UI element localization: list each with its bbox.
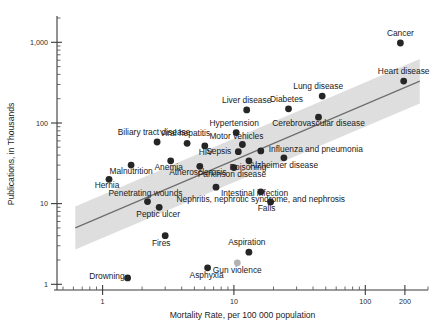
data-point-label: Hypertension xyxy=(210,118,260,128)
data-point-marker[interactable] xyxy=(319,93,326,100)
scatter-plot-canvas: 1101001,000110100200Mortality Rate, per … xyxy=(0,0,437,335)
data-point-label: Cerebrovascular disease xyxy=(272,118,365,128)
data-point-label: Heart disease xyxy=(378,66,430,76)
data-point-marker[interactable] xyxy=(184,140,191,147)
data-point-label: Liver disease xyxy=(222,95,272,105)
x-axis-tick-label: 200 xyxy=(399,297,411,306)
y-axis-tick-label: 1 xyxy=(44,280,48,289)
data-point-marker[interactable] xyxy=(213,184,220,191)
x-axis-title: Mortality Rate, per 100 000 population xyxy=(170,310,316,320)
y-axis-tick-label: 100 xyxy=(36,119,48,128)
data-point-label: Penetrating wounds xyxy=(108,188,182,198)
data-point-marker[interactable] xyxy=(144,198,151,205)
x-axis-tick-label: 100 xyxy=(359,297,371,306)
data-point-marker[interactable] xyxy=(246,249,253,256)
data-point-marker[interactable] xyxy=(397,40,404,47)
data-point-label: Diabetes xyxy=(270,94,303,104)
data-point-marker[interactable] xyxy=(285,105,292,112)
data-point-label: HIV xyxy=(199,147,213,157)
data-point-marker[interactable] xyxy=(235,148,242,155)
x-axis-tick-label: 1 xyxy=(101,297,105,306)
data-point-marker[interactable] xyxy=(239,141,246,148)
data-point-label: Malnutrition xyxy=(109,166,153,176)
data-point-label: Drowning xyxy=(89,271,125,281)
data-point-marker[interactable] xyxy=(243,107,250,114)
y-axis-tick-label: 1,000 xyxy=(30,38,48,47)
data-point-label: Fires xyxy=(152,238,171,248)
data-point-marker[interactable] xyxy=(257,148,264,155)
publications-vs-mortality-scatter-figure: 1101001,000110100200Mortality Rate, per … xyxy=(0,0,437,335)
data-point-marker[interactable] xyxy=(124,275,131,282)
data-point-label: Biliary tract disease xyxy=(118,127,191,137)
data-point-label: Motor vehicles xyxy=(209,131,263,141)
data-point-label: Lung disease xyxy=(293,81,343,91)
data-point-label: Aspiration xyxy=(228,237,266,247)
data-point-label: Peptic ulcer xyxy=(136,209,180,219)
data-point-label: Influenza and pneumonia xyxy=(269,144,363,154)
data-point-label: Gun violence xyxy=(213,265,262,275)
y-axis-title: Publications, in Thousands xyxy=(6,103,16,206)
data-point-marker[interactable] xyxy=(154,139,161,146)
data-point-label: Falls xyxy=(258,203,276,213)
data-point-marker[interactable] xyxy=(400,78,407,85)
x-axis-tick-label: 10 xyxy=(230,297,238,306)
y-axis-tick-label: 10 xyxy=(40,199,48,208)
data-point-label: Cancer xyxy=(387,28,414,38)
data-point-label: Parkinson disease xyxy=(198,169,267,179)
